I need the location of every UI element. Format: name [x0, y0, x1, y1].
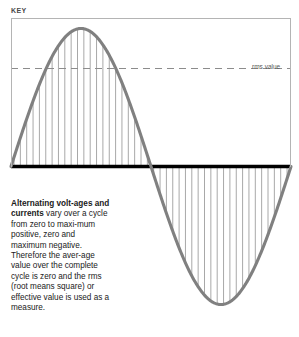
hatch-fill-positive	[14, 20, 287, 167]
rms-value-label: rms value	[252, 63, 280, 71]
caption-text: Alternating volt-ages and currents vary …	[11, 199, 111, 313]
alternating-current-diagram: KEY rms value Alternating volt-ages and …	[0, 0, 299, 337]
key-label: KEY	[11, 6, 27, 15]
caption-body: vary over a cycle from zero to maxi-mum …	[11, 209, 109, 312]
